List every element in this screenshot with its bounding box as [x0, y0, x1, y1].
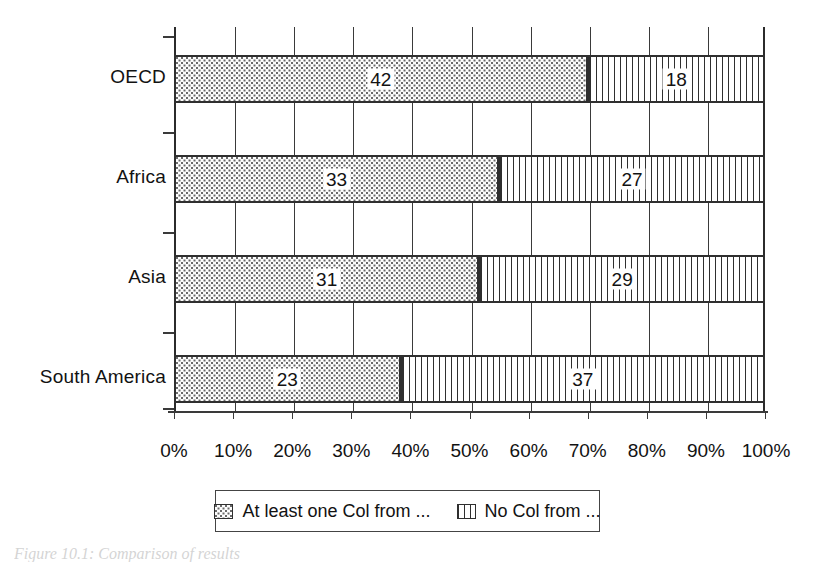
bar-segment-at-least-one: 42	[174, 55, 588, 103]
category-label: OECD	[6, 66, 166, 88]
bar-segment-no-col: 27	[499, 155, 765, 203]
category-label: South America	[6, 366, 166, 388]
x-axis-tick-label: 100%	[731, 440, 801, 462]
bar-row: 33 27	[174, 155, 765, 203]
y-axis-label-oecd: OECD	[0, 66, 166, 90]
x-axis-tick	[174, 412, 175, 419]
x-axis-tick	[470, 412, 471, 419]
bar-segment-no-col: 18	[588, 55, 765, 103]
bar-segment-at-least-one: 23	[174, 355, 401, 403]
x-axis-tick	[706, 412, 707, 419]
legend-label: No Col from ...	[485, 501, 601, 522]
x-axis-tick	[588, 412, 589, 419]
category-label: Asia	[6, 266, 166, 288]
y-axis-tick	[163, 132, 174, 134]
bar-value-label: 29	[609, 269, 636, 290]
x-axis-line	[168, 411, 768, 413]
bar-value-label: 18	[663, 69, 690, 90]
dotted-swatch-icon	[214, 504, 233, 519]
bar-value-label: 23	[274, 369, 301, 390]
legend-item-at-least-one: At least one Col from ...	[214, 501, 430, 522]
legend-item-no-col: No Col from ...	[457, 501, 601, 522]
bar-value-label: 31	[313, 269, 340, 290]
x-axis-tick	[233, 412, 234, 419]
bar-segment-at-least-one: 31	[174, 255, 479, 303]
bar-segment-no-col: 37	[401, 355, 765, 403]
y-axis-tick	[163, 408, 174, 410]
x-axis-tick	[647, 412, 648, 419]
y-axis-tick	[163, 332, 174, 334]
bar-value-label: 42	[367, 69, 394, 90]
x-axis-tick	[292, 412, 293, 419]
bar-value-label: 37	[569, 369, 596, 390]
striped-swatch-icon	[457, 504, 476, 519]
x-axis-tick	[765, 412, 766, 419]
bar-segment-at-least-one: 33	[174, 155, 499, 203]
y-axis-tick	[163, 232, 174, 234]
figure-caption: Figure 10.1: Comparison of results	[14, 545, 240, 563]
bar-row: 31 29	[174, 255, 765, 303]
x-axis-tick	[529, 412, 530, 419]
y-axis-label-africa: Africa	[0, 166, 166, 190]
bar-value-label: 27	[618, 169, 645, 190]
y-axis-label-asia: Asia	[0, 266, 166, 290]
category-label: Africa	[6, 166, 166, 188]
chart-legend: At least one Col from ... No Col from ..…	[215, 490, 600, 532]
y-axis-tick	[163, 36, 174, 38]
bar-value-label: 33	[323, 169, 350, 190]
bar-row: 23 37	[174, 355, 765, 403]
y-axis-label-south-america: South America	[0, 366, 166, 390]
bar-segment-no-col: 29	[479, 255, 765, 303]
x-axis-tick	[351, 412, 352, 419]
legend-label: At least one Col from ...	[242, 501, 430, 522]
bar-row: 42 18	[174, 55, 765, 103]
x-axis-tick	[410, 412, 411, 419]
